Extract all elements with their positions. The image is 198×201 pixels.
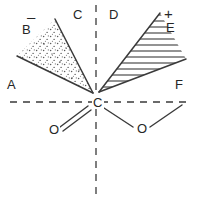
- carbonyl-double-bond: [60, 106, 91, 131]
- carbon-atom-label: C: [92, 96, 104, 109]
- region-e-label: E: [166, 21, 175, 34]
- region-f-label: F: [175, 78, 183, 91]
- oxygen-single-bond-label: O: [136, 122, 148, 135]
- orbital-diagram: – B C D + E A F C O O: [0, 0, 198, 201]
- ester-bond-o-r: [150, 105, 182, 127]
- region-b-label: B: [22, 23, 31, 36]
- oxygen-double-bond-label: O: [48, 123, 60, 136]
- region-c-label: C: [73, 8, 83, 21]
- region-a-label: A: [7, 78, 16, 91]
- region-d-label: D: [109, 8, 119, 21]
- plus-sign-label: +: [164, 6, 173, 21]
- ester-bond-c-o: [104, 108, 133, 127]
